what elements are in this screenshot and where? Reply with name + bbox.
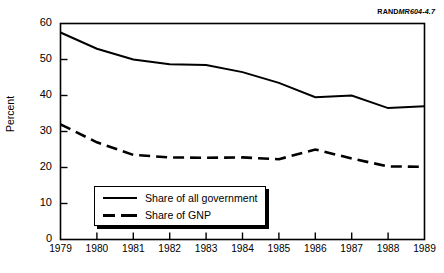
y-axis-tick-label: 60 [26,17,52,28]
chart-legend: Share of all government Share of GNP [94,186,266,226]
x-axis-tick-label: 1987 [340,243,363,254]
x-axis-tick-label: 1983 [195,243,218,254]
chart-figure: RANDMR604-4.7 Percent 0102030405060 1979… [0,0,444,273]
x-axis-tick-label: 1984 [231,243,254,254]
x-axis-tick-label: 1979 [49,243,72,254]
y-axis-tick-label: 10 [26,197,52,208]
source-tag-brand: RAND [377,7,398,16]
x-axis-tick-label: 1982 [158,243,181,254]
y-axis-tick-label: 40 [26,89,52,100]
series-line-2 [61,124,425,166]
y-axis-tick-labels: 0102030405060 [22,0,52,273]
legend-dashed-line-swatch [103,210,137,220]
y-axis-tick-label: 0 [26,233,52,244]
x-axis-tick-label: 1988 [377,243,400,254]
legend-item-share-of-gnp: Share of GNP [103,207,211,223]
x-axis-tick-label: 1986 [304,243,327,254]
x-axis-tick-label: 1980 [86,243,109,254]
legend-item-share-of-all-government: Share of all government [103,190,257,206]
legend-solid-line-swatch [103,193,137,203]
y-axis-tick-label: 20 [26,161,52,172]
x-axis-tick-label: 1989 [413,243,436,254]
series-line-1 [61,33,425,109]
legend-item-label: Share of GNP [145,209,211,221]
y-axis-title: Percent [4,84,16,144]
x-axis-tick-label: 1985 [268,243,291,254]
x-axis-tick-label: 1981 [122,243,145,254]
source-tag-code: MR604-4.7 [399,7,435,16]
plot-area [0,0,444,273]
source-tag: RANDMR604-4.7 [377,7,435,16]
x-axis-tick-labels: 1979198019811982198319841985198619871988… [0,243,444,259]
y-axis-tick-label: 30 [26,125,52,136]
y-axis-tick-label: 50 [26,53,52,64]
legend-item-label: Share of all government [145,192,257,204]
